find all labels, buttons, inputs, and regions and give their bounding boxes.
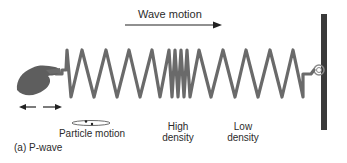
low-density-label: Low density — [223, 121, 263, 143]
wave-motion-arrow-icon — [125, 22, 222, 29]
spring-coil — [56, 50, 314, 97]
high-density-line1: High — [158, 121, 198, 132]
wave-motion-label: Wave motion — [138, 8, 202, 20]
high-density-label: High density — [158, 121, 198, 143]
hand-icon — [17, 66, 61, 96]
particle-motion-label: Particle motion — [54, 128, 130, 139]
low-density-line2: density — [223, 132, 263, 143]
double-arrow-icon — [19, 104, 62, 110]
ellipse-orbit-icon — [72, 120, 110, 125]
figure-caption: (a) P-wave — [14, 142, 62, 153]
low-density-line1: Low — [223, 121, 263, 132]
high-density-line2: density — [158, 132, 198, 143]
